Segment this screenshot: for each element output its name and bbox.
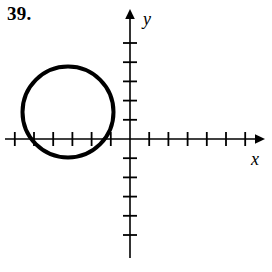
x-axis-arrowhead-icon (255, 134, 265, 144)
plotted-circle-curve (23, 67, 114, 158)
x-axis-label: x (250, 149, 259, 169)
y-axis-arrowhead-icon (125, 9, 135, 19)
coordinate-plane-graph: y x (0, 0, 272, 272)
math-figure-panel: 39. (0, 0, 272, 272)
y-axis-label: y (141, 9, 151, 29)
